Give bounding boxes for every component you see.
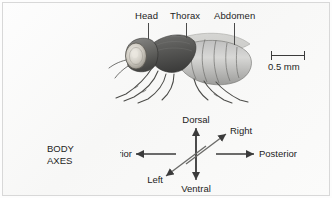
axis-label-anterior: Anterior xyxy=(120,148,132,159)
body-axes-heading-line1: BODY xyxy=(47,143,74,155)
body-axes-heading-line2: AXES xyxy=(47,155,74,167)
leader-line-thorax xyxy=(186,23,187,38)
scale-bar xyxy=(271,51,305,59)
fly-antennae xyxy=(109,60,128,78)
axis-label-ventral: Ventral xyxy=(181,183,211,194)
label-abdomen: Abdomen xyxy=(214,10,255,21)
fruit-fly-illustration xyxy=(104,24,264,108)
scale-bar-rule xyxy=(271,55,305,56)
body-axes-diagram: Dorsal Ventral Anterior Posterior Right … xyxy=(120,112,320,196)
axis-arrow-left xyxy=(166,146,206,176)
leader-line-abdomen xyxy=(234,23,235,45)
body-axes-heading: BODY AXES xyxy=(47,143,74,166)
scale-bar-tick-left xyxy=(271,51,272,60)
scale-bar-tick-right xyxy=(304,51,305,60)
axis-label-posterior: Posterior xyxy=(259,148,297,159)
label-head: Head xyxy=(135,10,158,21)
scale-bar-label: 0.5 mm xyxy=(268,61,300,72)
axis-label-right: Right xyxy=(230,125,253,136)
axis-label-dorsal: Dorsal xyxy=(182,114,209,125)
axis-label-left: Left xyxy=(147,174,163,185)
label-thorax: Thorax xyxy=(170,10,200,21)
leader-line-head xyxy=(148,23,149,39)
figure-canvas: Head Thorax Abdomen 0.5 mm BODY AXES Dor… xyxy=(0,0,332,198)
eye-highlight xyxy=(132,50,138,58)
axis-arrow-right xyxy=(186,134,226,164)
